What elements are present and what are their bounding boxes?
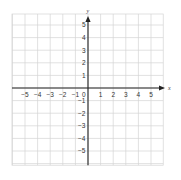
y-tick-label: 3: [82, 47, 86, 54]
x-tick-label: 3: [124, 91, 128, 98]
x-tick-label: −4: [34, 91, 42, 98]
x-tick-label: 2: [111, 91, 115, 98]
y-axis-arrow-icon: [85, 16, 90, 22]
x-tick-label: −5: [21, 91, 29, 98]
y-tick-label: −5: [78, 147, 86, 154]
coordinate-plane: −5−4−3−2−112345 54321−1−2−3−4−5 0 x y: [0, 0, 181, 180]
y-axis-label: y: [86, 8, 90, 14]
x-tick-label: −3: [46, 91, 54, 98]
x-tick-label: 5: [149, 91, 153, 98]
x-tick-label: 1: [99, 91, 103, 98]
y-tick-label: 1: [82, 72, 86, 79]
x-axis-arrow-icon: [159, 85, 165, 90]
y-tick-label: 2: [82, 59, 86, 66]
x-axis-label: x: [167, 85, 171, 91]
origin-label: 0: [82, 91, 86, 98]
x-tick-label: 4: [137, 91, 141, 98]
x-tick-labels: −5−4−3−2−112345: [21, 91, 153, 98]
y-tick-label: −3: [78, 122, 86, 129]
y-tick-label: 4: [82, 34, 86, 41]
y-tick-label: 5: [82, 21, 86, 28]
y-tick-label: −1: [78, 97, 86, 104]
y-tick-label: −4: [78, 135, 86, 142]
y-tick-label: −2: [78, 110, 86, 117]
x-tick-label: −2: [59, 91, 67, 98]
